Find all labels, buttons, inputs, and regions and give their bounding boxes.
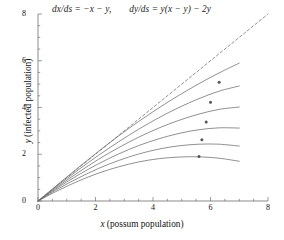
y-axis-tick-label: 4 bbox=[12, 103, 26, 112]
y-axis-tick-label: 8 bbox=[12, 9, 26, 18]
trajectory-marker bbox=[209, 101, 212, 104]
y-axis-title-rest: (infected population) bbox=[23, 59, 33, 140]
y-axis-tick-label: 6 bbox=[12, 56, 26, 65]
equation-dx: dx/ds = −x − y, bbox=[52, 4, 111, 14]
x-axis-tick-label: 0 bbox=[30, 203, 46, 212]
trajectory-curve bbox=[38, 63, 239, 201]
trajectory-curve bbox=[38, 128, 239, 201]
phase-plane-figure: dx/ds = −x − y, dy/ds = y(x − y) − 2y x … bbox=[0, 0, 284, 240]
x-axis-title-rest: (possum population) bbox=[105, 219, 184, 229]
x-axis-tick-label: 4 bbox=[145, 203, 161, 212]
y-axis-tick-label: 0 bbox=[12, 196, 26, 205]
x-axis-tick-label: 8 bbox=[260, 203, 276, 212]
trajectory-curve bbox=[38, 86, 239, 201]
equation-annotation: dx/ds = −x − y, dy/ds = y(x − y) − 2y bbox=[52, 4, 272, 14]
trajectory-marker bbox=[200, 138, 203, 141]
trajectory-marker bbox=[205, 120, 208, 123]
trajectory-marker bbox=[218, 81, 221, 84]
x-axis-title: x (possum population) bbox=[0, 219, 284, 229]
equation-dy: dy/ds = y(x − y) − 2y bbox=[129, 4, 211, 14]
trajectory-curve bbox=[38, 144, 239, 201]
trajectory-marker bbox=[198, 155, 201, 158]
y-axis-title-var: y bbox=[23, 139, 33, 143]
y-axis-tick-label: 2 bbox=[12, 149, 26, 158]
x-axis-tick-label: 6 bbox=[203, 203, 219, 212]
x-axis-tick-label: 2 bbox=[88, 203, 104, 212]
